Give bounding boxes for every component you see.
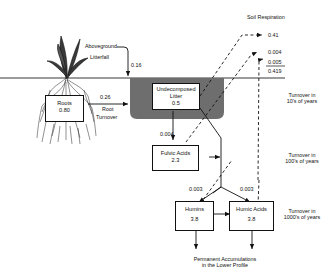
litter-label-2: Litter	[153, 93, 199, 100]
respiration-total: 0.419	[268, 68, 282, 74]
pool-roots: Roots 0.80	[45, 95, 84, 122]
plant-icon	[47, 36, 88, 78]
permanent-accumulations: Permanent Accumulations in the Lower Pro…	[180, 256, 270, 268]
roots-label: Roots	[46, 100, 83, 107]
turnover-1000s: Turnover in 1000's of years	[278, 208, 326, 220]
litter-to-humus-line	[200, 108, 221, 193]
pool-humic-acids: Humic Acids 3.8	[229, 201, 274, 231]
litter-fulvic-flux: 0.004	[160, 131, 174, 137]
respiration-flux-2: 0.004	[268, 49, 282, 55]
litterfall-flux: 0.16	[131, 62, 142, 68]
humins-label: Humins	[176, 206, 213, 213]
humins-flux: 0.003	[189, 186, 203, 192]
pool-humins: Humins 3.8	[175, 201, 214, 231]
litterfall-label: Litterfall	[90, 54, 109, 60]
turnover-100s-line2: 100's of years	[278, 158, 326, 164]
litterfall-arrow	[117, 47, 128, 76]
humic-flux: 0.003	[240, 186, 254, 192]
humic-value: 3.8	[230, 216, 273, 223]
diagram-lines	[0, 0, 327, 280]
humic-label: Humic Acids	[230, 206, 273, 213]
permanent-line2: in the Lower Profile	[180, 262, 270, 268]
turnover-10s-line2: 10's of years	[278, 98, 326, 104]
fulvic-label: Fulvic Acids	[153, 150, 198, 157]
pool-undecomposed-litter: Undecomposed Litter 0.5	[152, 83, 200, 110]
aboveground-label: Aboveground	[85, 43, 117, 49]
pool-fulvic-acids: Fulvic Acids 2.3	[152, 145, 199, 171]
humins-value: 3.8	[176, 216, 213, 223]
fulvic-value: 2.3	[153, 157, 198, 164]
respiration-flux-1: 0.41	[268, 32, 279, 38]
respiration-flux-3: 0.005	[268, 59, 282, 65]
litter-label-1: Undecomposed	[153, 86, 199, 93]
litter-value: 0.5	[153, 100, 199, 107]
turnover-1000s-line2: 1000's of years	[278, 214, 326, 220]
turnover-10s: Turnover in 10's of years	[278, 92, 326, 104]
root-turnover-flux: 0.26	[100, 94, 111, 100]
root-turnover-label-2: Turnover	[96, 114, 117, 120]
soil-respiration-title: Soil Respiration	[247, 14, 285, 20]
roots-value: 0.80	[46, 107, 83, 114]
turnover-100s: Turnover in 100's of years	[278, 152, 326, 164]
root-turnover-label-1: Root	[102, 106, 113, 112]
